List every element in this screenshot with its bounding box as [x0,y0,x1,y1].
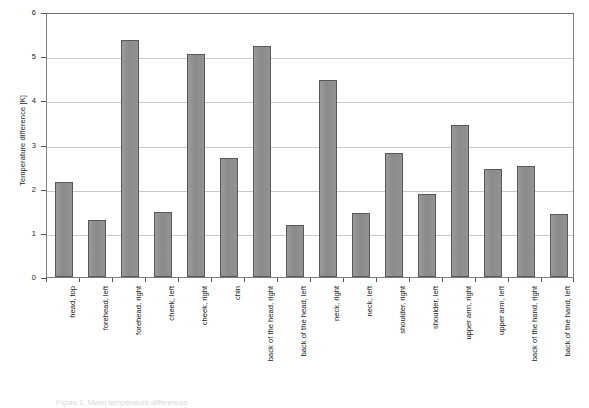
x-tick-mark [343,278,344,282]
bar-series [47,14,573,277]
y-axis-ticks: 0123456 [0,0,46,292]
bar [88,220,106,277]
bar [187,54,205,277]
x-tick-label: forehead, right [133,284,144,396]
x-tick-label: upper arm, right [463,284,474,396]
x-tick-label: neck, left [364,284,375,396]
x-tick-label: upper arm, left [496,284,507,396]
x-tick-mark [145,278,146,282]
x-tick-label: back of the hand, right [529,284,540,396]
bar [121,40,139,277]
bar [418,194,436,277]
x-tick-mark [573,278,574,282]
y-tick-label: 2 [32,186,36,194]
bar [451,125,469,277]
x-tick-label: chin [232,284,243,396]
x-tick-label: shoulder, right [397,284,408,396]
x-tick-mark [112,278,113,282]
bar [319,80,337,277]
y-tick-label: 4 [32,98,36,106]
bar [352,213,370,277]
bar [220,158,238,277]
x-tick-mark [310,278,311,282]
x-tick-mark [277,278,278,282]
plot-area [46,13,574,278]
x-tick-mark [79,278,80,282]
y-tick-label: 0 [32,274,36,282]
x-tick-label: back of the hand, left [562,284,573,396]
bar [517,166,535,277]
x-tick-label: back of the head, left [298,284,309,396]
bar-chart-figure: Temperature difference [K] 0123456 head,… [0,0,589,408]
x-tick-label: forehead, left [100,284,111,396]
x-axis-labels: head, topforehead, leftforehead, rightch… [46,284,574,396]
x-tick-label: back of the head, right [265,284,276,396]
x-axis-ticks [46,278,574,283]
bar [385,153,403,277]
x-tick-mark [211,278,212,282]
x-tick-mark [475,278,476,282]
x-tick-label: head, top [67,284,78,396]
y-tick-label: 5 [32,53,36,61]
x-tick-mark [541,278,542,282]
x-tick-mark [508,278,509,282]
bar [286,225,304,277]
bar [253,46,271,277]
bar [550,214,568,277]
x-tick-label: cheek, right [199,284,210,396]
x-tick-label: cheek, left [166,284,177,396]
figure-caption: Figure 1. Mean temperature differences [56,398,576,407]
x-tick-mark [46,278,47,282]
x-tick-mark [244,278,245,282]
y-tick-label: 6 [32,9,36,17]
x-tick-mark [178,278,179,282]
bar [154,212,172,277]
bar [55,182,73,277]
y-tick-label: 1 [32,230,36,238]
x-tick-mark [376,278,377,282]
bar [484,169,502,277]
x-tick-mark [442,278,443,282]
x-tick-mark [409,278,410,282]
x-tick-label: shoulder, left [430,284,441,396]
x-tick-label: neck, right [331,284,342,396]
y-tick-label: 3 [32,142,36,150]
